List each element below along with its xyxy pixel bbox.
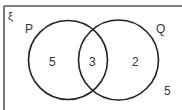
region-intersection-value: 3: [89, 55, 96, 69]
region-p-only-value: 5: [49, 55, 56, 69]
universal-set-symbol: ξ: [8, 10, 13, 22]
region-q-only-value: 2: [132, 55, 139, 69]
region-outside-value: 5: [164, 84, 171, 98]
venn-diagram: ξ P Q 5 3 2 5: [0, 0, 182, 110]
set-q-label: Q: [156, 22, 165, 36]
set-p-label: P: [25, 22, 33, 36]
